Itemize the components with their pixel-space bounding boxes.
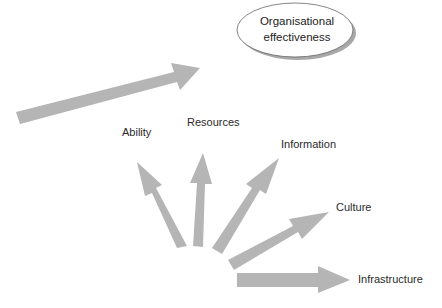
infrastructure-arrow: [237, 266, 350, 293]
culture-arrow: [228, 212, 329, 270]
label-culture: Culture: [336, 201, 371, 213]
target-label: Organisational effectiveness: [240, 13, 354, 45]
main-arrow: [16, 63, 200, 124]
diagram-canvas: [0, 0, 442, 308]
target-label-line2: effectiveness: [240, 29, 354, 45]
label-information: Information: [281, 138, 336, 150]
resources-arrow: [190, 153, 212, 247]
label-ability: Ability: [122, 126, 151, 138]
label-infrastructure: Infrastructure: [358, 273, 423, 285]
target-label-line1: Organisational: [240, 13, 354, 29]
ability-arrow: [137, 162, 187, 248]
label-resources: Resources: [187, 116, 240, 128]
